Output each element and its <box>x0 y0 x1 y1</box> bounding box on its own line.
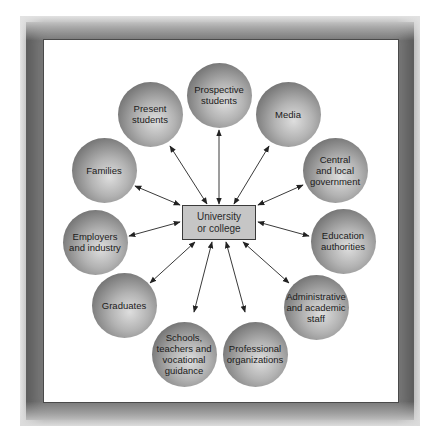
arrow-to-schools-teachers-guidance <box>194 242 212 312</box>
node-employers-industry: Employers and industry <box>63 210 128 275</box>
arrow-to-central-local-government <box>258 185 303 205</box>
node-administrative-academic-staff: Administrative and academic staff <box>284 275 349 340</box>
node-label: Administrative and academic staff <box>286 291 346 324</box>
node-graduates: Graduates <box>92 273 157 338</box>
node-label: Professional organizations <box>227 343 284 365</box>
node-prospective-students: Prospective students <box>187 63 252 128</box>
node-label: Schools, teachers and vocational guidanc… <box>157 332 212 376</box>
node-label: Present students <box>132 103 168 125</box>
node-label: Graduates <box>102 300 146 311</box>
arrow-to-families <box>135 186 180 205</box>
node-label: Families <box>86 165 121 176</box>
node-present-students: Present students <box>118 82 183 147</box>
node-label: Education authorities <box>321 230 365 252</box>
node-label: Central and local government <box>310 154 360 187</box>
node-label: Media <box>275 109 301 120</box>
arrow-to-media <box>234 146 269 204</box>
node-professional-organizations: Professional organizations <box>223 322 288 387</box>
arrow-to-administrative-academic-staff <box>243 242 289 283</box>
node-media: Media <box>256 82 321 147</box>
node-schools-teachers-guidance: Schools, teachers and vocational guidanc… <box>152 322 217 387</box>
arrow-to-education-authorities <box>258 222 309 236</box>
node-label: Employers and industry <box>69 231 121 253</box>
center-node-label: University or college <box>197 211 241 235</box>
node-central-local-government: Central and local government <box>303 138 368 203</box>
arrow-to-graduates <box>150 242 195 283</box>
node-families: Families <box>72 138 137 203</box>
center-node-university: University or college <box>182 205 256 240</box>
arrow-to-present-students <box>170 146 207 204</box>
node-education-authorities: Education authorities <box>311 209 376 274</box>
arrow-to-employers-industry <box>129 222 180 236</box>
node-label: Prospective students <box>194 84 244 106</box>
arrow-to-professional-organizations <box>226 242 245 312</box>
